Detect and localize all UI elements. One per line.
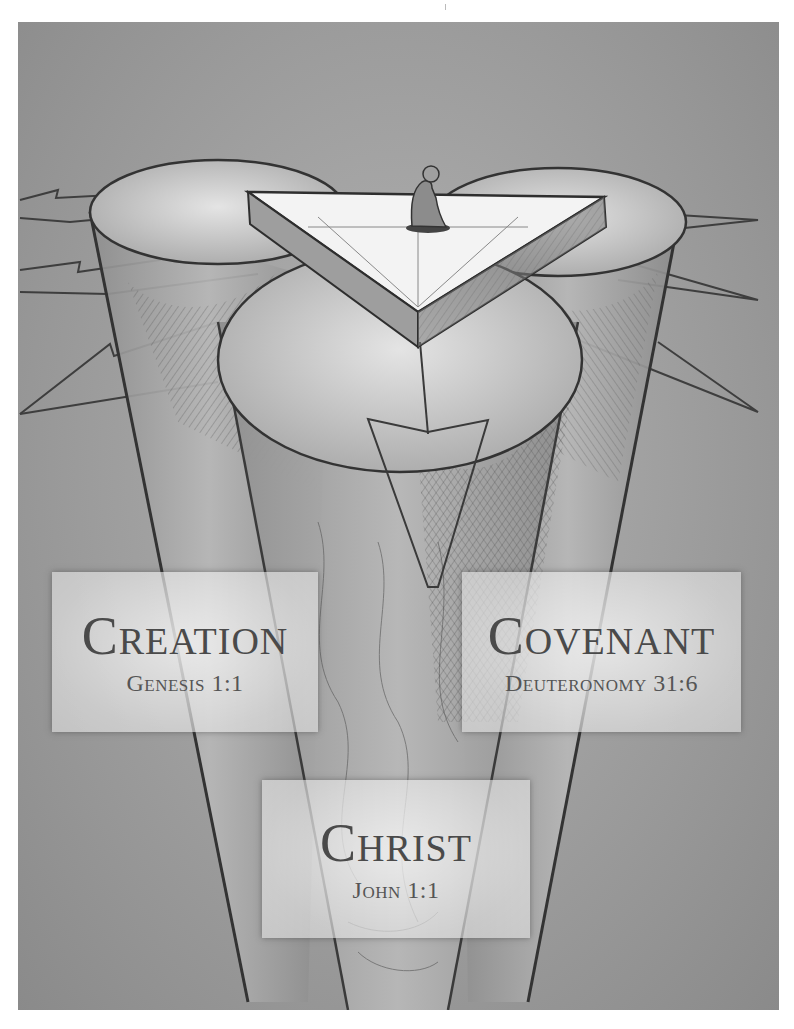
label-christ: Christ John 1:1 — [262, 780, 530, 938]
creation-title: Creation — [82, 608, 289, 664]
illustration: Creation Genesis 1:1 Covenant Deuteronom… — [18, 22, 779, 1010]
covenant-title: Covenant — [488, 608, 716, 664]
christ-reference: John 1:1 — [353, 877, 440, 904]
creation-reference: Genesis 1:1 — [126, 670, 243, 697]
label-covenant: Covenant Deuteronomy 31:6 — [462, 572, 741, 732]
christ-title: Christ — [320, 815, 472, 871]
covenant-reference: Deuteronomy 31:6 — [505, 670, 698, 697]
page-mark — [445, 4, 446, 10]
label-creation: Creation Genesis 1:1 — [52, 572, 318, 732]
